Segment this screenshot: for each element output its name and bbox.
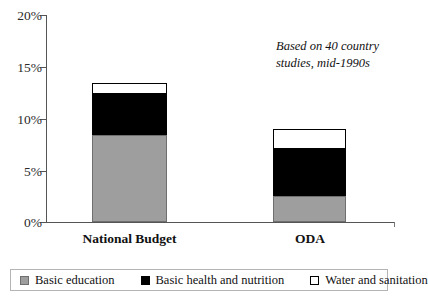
x-axis-line <box>46 222 395 223</box>
legend-swatch-icon-water-and-sanitation <box>310 276 319 285</box>
bar-segment-education-oda[interactable] <box>273 196 346 222</box>
legend-label-water-and-sanitation: Water and sanitation <box>325 274 427 287</box>
legend-item-basic-health-and-nutrition[interactable]: Basic health and nutrition <box>141 274 285 287</box>
legend-swatch-icon-basic-health-and-nutrition <box>141 276 150 285</box>
bar-label-oda: ODA <box>250 231 370 247</box>
legend-swatch-icon-basic-education <box>20 276 29 285</box>
bar-segment-water-oda[interactable] <box>273 129 346 149</box>
bar-segment-health-national-budget[interactable] <box>92 93 167 136</box>
annotation-line-2: studies, mid-1990s <box>276 55 400 72</box>
bar-segment-education-national-budget[interactable] <box>92 135 167 222</box>
legend-item-basic-education[interactable]: Basic education <box>20 274 115 287</box>
annotation-line-1: Based on 40 country <box>276 38 400 55</box>
bar-label-national-budget: National Budget <box>62 231 197 247</box>
y-tick-label-10: 10% <box>17 113 42 127</box>
chart-annotation: Based on 40 country studies, mid-1990s <box>276 38 400 72</box>
chart-legend: Basic education Basic health and nutriti… <box>10 269 388 291</box>
x-axis-end-tick <box>394 222 395 227</box>
bar-national-budget[interactable] <box>92 83 167 222</box>
bar-oda[interactable] <box>273 129 346 222</box>
y-tick-label-15: 15% <box>17 61 42 75</box>
y-tick-label-5: 5% <box>24 165 42 179</box>
y-axis-line <box>46 15 47 223</box>
y-tick-label-20: 20% <box>17 9 42 23</box>
plot-area: 20% 15% 10% 5% 0% National Budget ODA Ba… <box>0 0 405 265</box>
legend-label-basic-education: Basic education <box>35 274 115 287</box>
bar-segment-health-oda[interactable] <box>273 148 346 197</box>
y-tick-label-0: 0% <box>24 216 42 230</box>
legend-item-water-and-sanitation[interactable]: Water and sanitation <box>310 274 427 287</box>
legend-label-basic-health-and-nutrition: Basic health and nutrition <box>156 274 285 287</box>
